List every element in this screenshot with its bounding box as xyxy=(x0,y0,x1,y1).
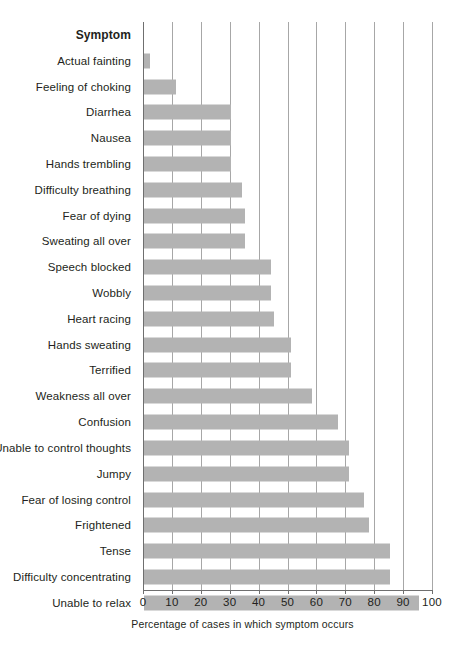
bar xyxy=(144,389,312,404)
header-spacer-row xyxy=(143,22,432,48)
category-label: Nausea xyxy=(0,125,137,151)
bar-row xyxy=(143,99,432,125)
category-label: Terrified xyxy=(0,358,137,384)
x-axis-title: Percentage of cases in which symptom occ… xyxy=(0,618,461,630)
bar xyxy=(144,182,242,197)
category-label: Fear of losing control xyxy=(0,487,137,513)
bar-row xyxy=(143,358,432,384)
bar xyxy=(144,544,390,559)
bar-row xyxy=(143,48,432,74)
category-axis-labels: Symptom Actual faintingFeeling of chokin… xyxy=(0,22,137,590)
bar xyxy=(144,492,364,507)
x-tick-70 xyxy=(345,590,346,594)
x-tick-10 xyxy=(172,590,173,594)
x-tick-label: 100 xyxy=(412,596,452,608)
category-label: Tense xyxy=(0,538,137,564)
bar-row xyxy=(143,487,432,513)
category-axis-header: Symptom xyxy=(0,22,137,48)
category-label: Actual fainting xyxy=(0,48,137,74)
plot-area xyxy=(143,22,432,590)
x-tick-50 xyxy=(288,590,289,594)
bar xyxy=(144,234,245,249)
bar xyxy=(144,363,291,378)
category-label: Wobbly xyxy=(0,280,137,306)
gridline-100 xyxy=(432,22,433,590)
x-tick-30 xyxy=(230,590,231,594)
category-label: Unable to control thoughts xyxy=(0,435,137,461)
bar-row xyxy=(143,564,432,590)
x-tick-40 xyxy=(259,590,260,594)
bar xyxy=(144,440,349,455)
x-tick-20 xyxy=(201,590,202,594)
bar-row xyxy=(143,409,432,435)
bar xyxy=(144,79,176,94)
category-label: Heart racing xyxy=(0,306,137,332)
bar-row xyxy=(143,538,432,564)
category-label: Feeling of choking xyxy=(0,74,137,100)
bar-chart: Symptom Actual faintingFeeling of chokin… xyxy=(0,0,461,659)
bar-row xyxy=(143,383,432,409)
bar-row xyxy=(143,203,432,229)
bar xyxy=(144,286,271,301)
bar xyxy=(144,311,274,326)
category-label: Jumpy xyxy=(0,461,137,487)
bar xyxy=(144,466,349,481)
bar xyxy=(144,337,291,352)
category-label: Hands trembling xyxy=(0,151,137,177)
x-tick-80 xyxy=(374,590,375,594)
bar xyxy=(144,415,338,430)
category-label: Weakness all over xyxy=(0,383,137,409)
category-label: Difficulty concentrating xyxy=(0,564,137,590)
category-label: Hands sweating xyxy=(0,332,137,358)
bar xyxy=(144,131,231,146)
bar-row xyxy=(143,177,432,203)
bar-row xyxy=(143,151,432,177)
category-label: Unable to relax xyxy=(0,590,137,616)
category-label: Diarrhea xyxy=(0,99,137,125)
category-label: Frightened xyxy=(0,512,137,538)
category-label: Fear of dying xyxy=(0,203,137,229)
bar-row xyxy=(143,512,432,538)
category-label: Confusion xyxy=(0,409,137,435)
bar xyxy=(144,156,231,171)
x-tick-60 xyxy=(316,590,317,594)
bar xyxy=(144,208,245,223)
bar xyxy=(144,518,369,533)
category-label: Speech blocked xyxy=(0,254,137,280)
bar-row xyxy=(143,280,432,306)
bar-row xyxy=(143,74,432,100)
bar-row xyxy=(143,461,432,487)
bar xyxy=(144,569,390,584)
x-tick-90 xyxy=(403,590,404,594)
bar-row xyxy=(143,435,432,461)
x-tick-100 xyxy=(432,590,433,594)
category-label: Sweating all over xyxy=(0,229,137,255)
bar-row xyxy=(143,306,432,332)
bar-row xyxy=(143,125,432,151)
bar-row xyxy=(143,229,432,255)
bar-row xyxy=(143,254,432,280)
bar xyxy=(144,260,271,275)
bar-rows xyxy=(143,22,432,590)
bar-row xyxy=(143,332,432,358)
category-label: Difficulty breathing xyxy=(0,177,137,203)
x-tick-0 xyxy=(143,590,144,594)
bar xyxy=(144,105,231,120)
bar xyxy=(144,53,150,68)
